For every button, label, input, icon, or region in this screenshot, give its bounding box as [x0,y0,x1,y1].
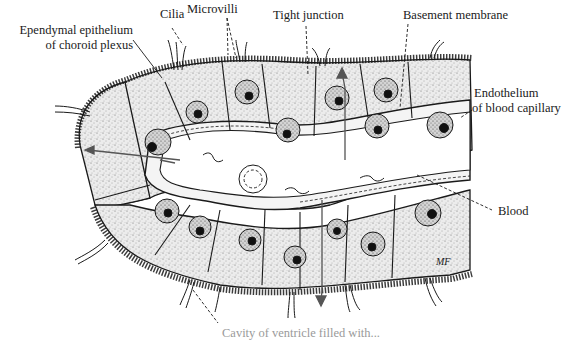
label-cilia: Cilia [160,7,184,21]
label-tight-junction: Tight junction [273,8,344,22]
label-basement-membrane: Basement membrane [403,8,508,22]
label-endothelium-line2: of blood capillary [472,101,561,115]
label-microvilli: Microvilli [187,2,238,16]
signature: MF [435,256,451,267]
label-blood: Blood [498,204,529,218]
label-ventricle-clipped: Cavity of ventricle filled with... [222,326,380,340]
label-endothelium-line1: Endothelium [474,86,539,100]
label-ependymal-line2: of choroid plexus [6,38,133,52]
label-ependymal-line1: Ependymal epithelium [6,23,133,37]
